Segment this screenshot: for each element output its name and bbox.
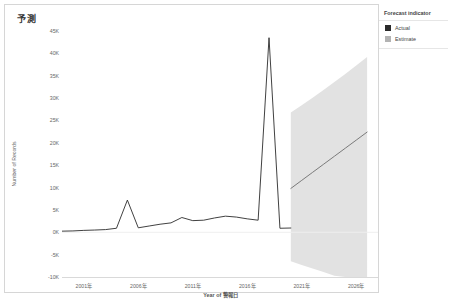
y-axis-tick-label: -5K bbox=[17, 252, 59, 258]
chart-canvas bbox=[62, 31, 378, 277]
legend-divider-top bbox=[379, 20, 448, 21]
legend-swatch-estimate bbox=[385, 36, 391, 42]
y-axis-tick-label: 25K bbox=[17, 117, 59, 123]
chart-pane: 45K40K35K30K25K20K15K10K5K0K-5K-10K Numb… bbox=[15, 25, 379, 292]
y-axis-tick-label: 40K bbox=[17, 50, 59, 56]
x-axis-line bbox=[62, 277, 379, 278]
legend-panel: Forecast indicator Actual Estimate bbox=[378, 4, 448, 293]
x-axis-tick-label: 2001年 bbox=[76, 282, 93, 289]
legend-item-actual[interactable]: Actual bbox=[385, 25, 410, 31]
y-axis-tick-label: 10K bbox=[17, 185, 59, 191]
legend-label-estimate: Estimate bbox=[395, 36, 416, 42]
y-axis-tick-label: 30K bbox=[17, 95, 59, 101]
y-axis-tick-label: 35K bbox=[17, 73, 59, 79]
x-axis-tick-label: 2026年 bbox=[348, 282, 365, 289]
legend-label-actual: Actual bbox=[395, 25, 410, 31]
x-axis-tick-label: 2021年 bbox=[293, 282, 310, 289]
y-axis-title: Number of Records bbox=[11, 141, 17, 186]
y-axis-tick-label: 45K bbox=[17, 28, 59, 34]
x-axis-tick-label: 2011年 bbox=[185, 282, 201, 289]
x-axis-tick-label: 2016年 bbox=[239, 282, 256, 289]
y-axis-tick-label: 15K bbox=[17, 162, 59, 168]
forecast-band-shape bbox=[291, 57, 367, 277]
y-axis-tick-label: 20K bbox=[17, 140, 59, 146]
legend-divider-bottom bbox=[379, 48, 448, 49]
x-axis-tick-label: 2006年 bbox=[130, 282, 147, 289]
x-axis-title: Year of 警報日 bbox=[62, 291, 379, 299]
legend-title: Forecast indicator bbox=[384, 10, 431, 16]
plot-area bbox=[62, 31, 378, 277]
legend-swatch-actual bbox=[385, 25, 391, 31]
legend-item-estimate[interactable]: Estimate bbox=[385, 36, 416, 42]
y-axis-tick-label: 0K bbox=[17, 229, 59, 235]
y-axis: 45K40K35K30K25K20K15K10K5K0K-5K-10K bbox=[15, 31, 59, 277]
y-axis-tick-label: -10K bbox=[17, 274, 59, 280]
actual-line bbox=[62, 38, 291, 231]
y-axis-tick-label: 5K bbox=[17, 207, 59, 213]
forecast-confidence-band bbox=[291, 57, 367, 277]
page-title: 予測 bbox=[17, 12, 36, 25]
